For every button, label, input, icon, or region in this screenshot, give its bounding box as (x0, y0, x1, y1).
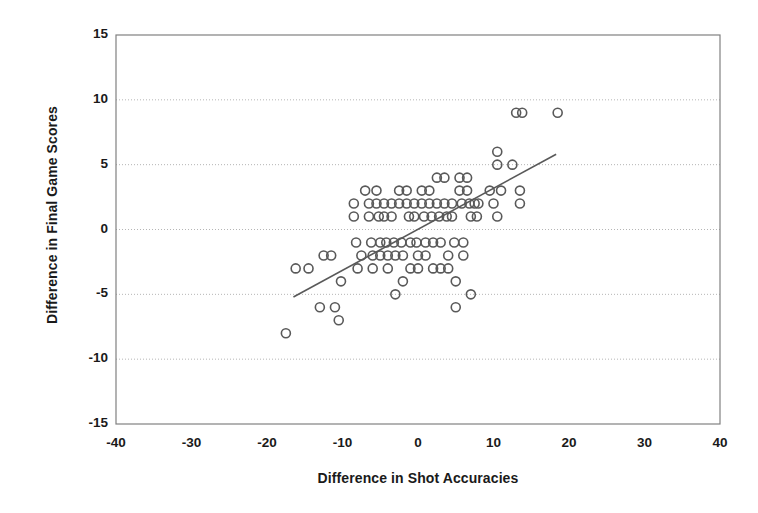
data-point (349, 212, 358, 221)
data-point (459, 251, 468, 260)
data-point (368, 264, 377, 273)
data-point (304, 264, 313, 273)
scatter-plot-figure: Difference in Final Game Scores Differen… (0, 0, 758, 513)
data-point (367, 238, 376, 247)
data-point (459, 238, 468, 247)
data-point (451, 277, 460, 286)
data-point (444, 251, 453, 260)
data-point (515, 186, 524, 195)
trend-line (293, 154, 556, 297)
data-point (383, 264, 392, 273)
data-point (330, 303, 339, 312)
data-point (518, 108, 527, 117)
data-point (334, 316, 343, 325)
data-point (489, 199, 498, 208)
data-point (493, 147, 502, 156)
data-point (361, 186, 370, 195)
data-point (372, 186, 381, 195)
plot-canvas (0, 0, 758, 513)
data-point (553, 108, 562, 117)
data-point (315, 303, 324, 312)
data-point (451, 303, 460, 312)
data-point (291, 264, 300, 273)
data-point (412, 238, 421, 247)
data-point (472, 212, 481, 221)
data-points (281, 108, 562, 337)
data-point (450, 238, 459, 247)
data-point (398, 277, 407, 286)
data-point (515, 199, 524, 208)
data-point (493, 212, 502, 221)
data-point (364, 212, 373, 221)
data-point (349, 199, 358, 208)
data-point (352, 238, 361, 247)
data-point (353, 264, 362, 273)
data-point (497, 186, 506, 195)
data-point (336, 277, 345, 286)
data-point (281, 329, 290, 338)
